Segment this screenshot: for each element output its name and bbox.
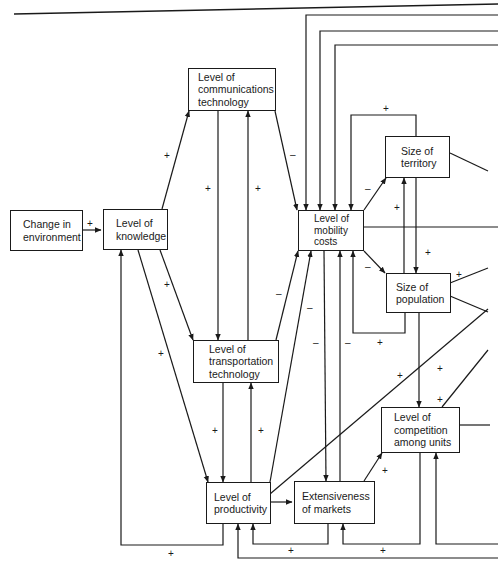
node-level-of-communications-technology: Level of communications technology (188, 68, 276, 111)
node-extensiveness-of-markets: Extensiveness of markets (294, 481, 375, 524)
node-label: Level of (116, 217, 167, 230)
node-level-of-productivity: Level of productivity (206, 482, 271, 524)
sign-knowledge-productivity: + (158, 349, 164, 359)
node-label: environment (23, 231, 82, 244)
node-label: Size of (401, 145, 449, 158)
node-label: Level of (214, 491, 270, 504)
node-level-of-knowledge: Level of knowledge (103, 209, 168, 250)
node-level-of-competition-among-units: Level of competition among units (381, 407, 460, 453)
sign-mobility-population: – (365, 262, 371, 272)
sign-comm-mobility: – (290, 150, 296, 160)
node-label: Level of (394, 411, 459, 424)
node-level-of-mobility-costs: Level of mobility costs (298, 210, 364, 251)
sign-right-competition: + (437, 395, 443, 405)
sign-knowledge-comm: + (164, 151, 170, 161)
node-label: population (396, 293, 450, 306)
sign-comm-transport: + (205, 184, 211, 194)
sign-population-territory: + (425, 248, 431, 258)
sign-population-right: + (456, 270, 462, 280)
node-label: Level of (209, 343, 278, 356)
sign-population-competition: + (397, 371, 403, 381)
sign-competition-markets: + (380, 546, 386, 556)
node-label: among units (394, 436, 459, 449)
sign-mobility-productivity-1: – (307, 303, 313, 313)
node-label: knowledge (116, 230, 167, 243)
node-label: competition (394, 424, 459, 437)
sign-mobility-markets: – (345, 338, 351, 348)
node-change-in-environment: Change in environment (10, 210, 83, 251)
node-label: Size of (396, 281, 450, 294)
node-label: of markets (302, 503, 374, 516)
sign-env-knowledge: + (87, 219, 93, 229)
sign-territory-population: + (394, 203, 400, 213)
sign-mobility-territory: – (365, 184, 371, 194)
node-label: mobility (314, 225, 363, 237)
node-label: communications (198, 83, 275, 96)
sign-productivity-transport: + (258, 426, 264, 436)
sign-transport-productivity: + (212, 426, 218, 436)
node-label: territory (401, 157, 449, 170)
sign-knowledge-transport: + (164, 280, 170, 290)
node-size-of-territory: Size of territory (385, 136, 450, 178)
node-label: Level of (314, 213, 363, 225)
sign-mobility-productivity-2: – (313, 338, 319, 348)
sign-right-diagonal: + (437, 364, 443, 374)
node-label: costs (314, 236, 363, 248)
sign-transport-mobility: – (276, 289, 282, 299)
sign-productivity-knowledge: + (168, 549, 174, 559)
node-label: technology (198, 96, 275, 109)
sign-transport-comm: + (255, 184, 261, 194)
node-size-of-population: Size of population (386, 273, 451, 313)
sign-population-loop: + (377, 338, 383, 348)
node-label: transportation (209, 355, 278, 368)
sign-markets-competition: + (382, 466, 388, 476)
node-label: productivity (214, 503, 270, 516)
node-label: technology (209, 368, 278, 381)
node-label: Change in (23, 218, 82, 231)
sign-markets-productivity: + (288, 546, 294, 556)
sign-territory-loop: + (383, 104, 389, 114)
node-level-of-transportation-technology: Level of transportation technology (193, 340, 279, 383)
node-label: Level of (198, 71, 275, 84)
node-label: Extensiveness (302, 490, 374, 503)
